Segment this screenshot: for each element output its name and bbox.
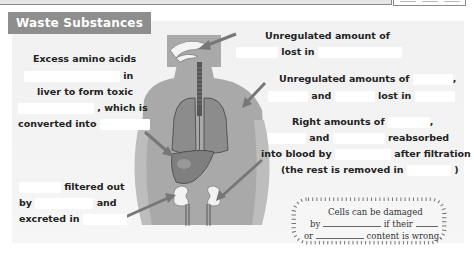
blank-kidney-process[interactable]	[335, 149, 391, 160]
note-blank2[interactable]	[416, 219, 438, 227]
blank-filter-organ[interactable]	[35, 198, 93, 209]
blank-filter-substance[interactable]	[19, 182, 61, 193]
blank-skin-substance1[interactable]	[413, 74, 453, 85]
blank-kidney-substance3[interactable]	[333, 133, 385, 144]
blank-lungs-organ[interactable]	[318, 47, 402, 58]
blank-skin-organ[interactable]	[415, 91, 455, 102]
label-lungs-line2: lost in	[236, 46, 402, 58]
label-kidney-line4: (the rest is removed in )	[281, 164, 459, 176]
label-amino-line5: converted into	[18, 118, 150, 130]
section-title: Waste Substances	[8, 12, 151, 34]
label-filter-line2: by and	[19, 197, 117, 209]
label-filter-line1: filtered out	[19, 181, 125, 193]
blank-lungs-substance[interactable]	[236, 47, 278, 58]
blank-kidney-substance1[interactable]	[388, 117, 430, 128]
blank-kidney-urine[interactable]	[407, 165, 451, 176]
blank-amino-product[interactable]	[100, 119, 150, 130]
note-line3: or content is wrong.	[304, 231, 442, 241]
header-bar	[0, 0, 392, 5]
label-kidney-line3: into blood by after filtration	[261, 148, 471, 160]
label-kidney-line2: and reabsorbed	[268, 132, 449, 144]
label-kidney-line1: Right amounts of ,	[292, 116, 433, 128]
blank-filter-urine[interactable]	[83, 214, 127, 225]
label-amino-line3: liver to form toxic	[37, 86, 133, 98]
label-amino-line4: , which is	[18, 102, 148, 114]
page-box	[393, 0, 466, 6]
blank-amino-process[interactable]	[24, 71, 120, 82]
note-blank3[interactable]	[316, 231, 364, 239]
label-amino-line1: Excess amino acids	[33, 53, 136, 65]
note-box: Cells can be damaged by if their or cont…	[290, 196, 448, 246]
label-lungs-line1: Unregulated amount of	[265, 30, 390, 42]
blank-kidney-substance2[interactable]	[268, 133, 306, 144]
blank-skin-substance2[interactable]	[268, 91, 308, 102]
label-amino-line2: in	[24, 70, 133, 82]
blank-amino-toxic[interactable]	[18, 103, 94, 114]
note-line1: Cells can be damaged	[328, 207, 423, 217]
note-line2: by if their	[310, 219, 438, 229]
note-blank1[interactable]	[323, 219, 381, 227]
blank-skin-substance3[interactable]	[335, 91, 375, 102]
top-strip	[0, 0, 474, 6]
label-filter-line3: excreted in	[19, 213, 127, 225]
label-skin-line2: and lost in	[268, 90, 455, 102]
label-skin-line1: Unregulated amounts of ,	[279, 73, 456, 85]
